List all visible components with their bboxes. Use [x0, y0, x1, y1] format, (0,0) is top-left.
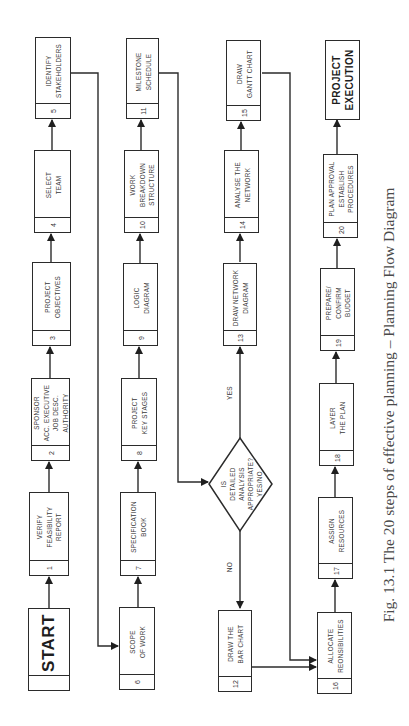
- step-3-project-objectives: PROJECT OBJECTIVES 3: [32, 262, 71, 346]
- step-number: 14: [238, 221, 245, 229]
- step-number: 12: [232, 680, 239, 688]
- step-number-strip: 13: [224, 330, 256, 345]
- step-label: LAYER THE PLAN: [327, 401, 346, 434]
- step-number: 6: [134, 680, 141, 684]
- step-number-strip: 9: [124, 330, 157, 345]
- step-label: ALLOCATE REONSIBILITIES: [325, 619, 344, 673]
- step-number: 15: [240, 109, 247, 117]
- step-label: SPONSOR ACC. EXECUTIVE JOB DESC. AUTHORI…: [32, 384, 70, 441]
- step-number-strip: 10: [125, 217, 158, 232]
- step-19-prepare-confirm-budget: PREPARE/ CONFIRM BUDGET 19: [320, 268, 355, 351]
- step-label: LOGIC DIAGRAM: [131, 282, 150, 314]
- step-number: 11: [139, 107, 146, 114]
- step-number-strip: 14: [225, 217, 258, 232]
- step-number-strip: 18: [320, 450, 353, 465]
- step-label: SPECIFICATION BOOK: [129, 501, 148, 553]
- step-label: DRAW GANTT CHART: [234, 50, 253, 98]
- end-label: PROJECT EXECUTION: [330, 49, 356, 110]
- step-number: 10: [138, 221, 145, 229]
- step-number: 20: [337, 226, 344, 234]
- step-number: 1: [46, 566, 53, 570]
- step-label: WORK BREAKDOWN STRUCTURE: [127, 163, 156, 207]
- start-strip: [29, 675, 69, 690]
- step-number-strip: 2: [32, 445, 69, 460]
- step-number: 13: [237, 334, 244, 342]
- yes-branch-label: YES: [226, 386, 233, 400]
- step-label: VERIFY FEASIBILITY REPORT: [35, 507, 64, 548]
- step-2-sponsor: SPONSOR ACC. EXECUTIVE JOB DESC. AUTHORI…: [31, 378, 70, 461]
- step-8-project-key-stages: PROJECT KEY STAGES 8: [121, 378, 157, 461]
- step-label: PLAN APPROVAL ESTABLISH PROCEDURES: [326, 161, 355, 216]
- step-1-verify-feasibility: VERIFY FEASIBILITY REPORT 1: [29, 492, 69, 576]
- step-16-allocate-responsibilities: ALLOCATE REONSIBILITIES 16: [317, 612, 352, 694]
- step-10-work-breakdown-structure: WORK BREAKDOWN STRUCTURE 10: [124, 150, 159, 233]
- step-number-strip: 17: [319, 563, 352, 578]
- step-number-strip: 8: [122, 445, 156, 460]
- decision-label: IS DETAILED ANALYSIS APPROPRIATE? YES/NO: [219, 458, 264, 511]
- step-number-strip: 3: [33, 330, 70, 345]
- step-number-strip: 20: [324, 222, 357, 237]
- step-11-milestone-schedule: MILESTONE SCHEDULE 11: [126, 38, 159, 119]
- step-5-identify-stakeholders: IDENTIFY STAKEHOLDERS 5: [35, 37, 71, 119]
- step-number-strip: 1: [30, 560, 68, 575]
- step-15-draw-gantt-chart: DRAW GANTT CHART 15: [226, 40, 261, 121]
- step-4-select-team: SELECT TEAM 4: [34, 150, 71, 233]
- step-label: SCOPE OF WORK: [128, 625, 147, 657]
- step-number-strip: 15: [227, 105, 260, 120]
- step-number: 18: [333, 454, 340, 462]
- step-number: 7: [135, 566, 142, 570]
- step-number: 17: [332, 567, 339, 575]
- step-7-specification-book: SPECIFICATION BOOK 7: [120, 492, 156, 576]
- step-number: 8: [136, 451, 143, 455]
- step-label: PROJECT KEY STAGES: [130, 391, 149, 433]
- step-label: SELECT TEAM: [43, 171, 62, 197]
- start-node: START: [28, 608, 70, 691]
- step-number-strip: 19: [321, 335, 354, 350]
- step-number-strip: 7: [121, 560, 155, 575]
- step-number: 5: [50, 109, 57, 113]
- step-number-strip: 6: [120, 674, 154, 689]
- step-label: ANALYSE THE NETWORK: [232, 161, 251, 207]
- step-label: PROJECT OBJECTIVES: [42, 276, 61, 318]
- step-13-draw-network-diagram: DRAW NETWORK DIAGRAM 13: [223, 263, 257, 346]
- step-label: MILESTONE SCHEDULE: [133, 52, 152, 91]
- start-label: START: [44, 614, 54, 672]
- step-number: 16: [331, 682, 338, 690]
- step-label: DRAW THE BAR CHART: [226, 625, 245, 664]
- step-number: 3: [48, 336, 55, 340]
- step-number: 9: [137, 336, 144, 340]
- step-label: PREPARE/ CONFIRM BUDGET: [323, 286, 352, 320]
- step-number-strip: 5: [36, 103, 70, 118]
- step-number-strip: 12: [219, 676, 251, 691]
- step-18-layer-the-plan: LAYER THE PLAN 18: [319, 383, 354, 466]
- step-number-strip: 4: [35, 217, 70, 232]
- step-6-scope-of-work: SCOPE OF WORK 6: [119, 607, 155, 690]
- step-label: IDENTIFY STAKEHOLDERS: [44, 44, 63, 98]
- no-branch-label: NO: [226, 562, 233, 573]
- planning-flow-diagram: START VERIFY FEASIBILITY REPORT 1 SPONSO…: [0, 0, 409, 726]
- step-14-analyse-network: ANALYSE THE NETWORK 14: [224, 150, 259, 233]
- step-number: 19: [334, 339, 341, 347]
- step-label: ASSIGN RESOURCES: [326, 510, 345, 553]
- step-12-draw-bar-chart: DRAW THE BAR CHART 12: [218, 610, 252, 692]
- project-execution-node: PROJECT EXECUTION: [325, 40, 360, 120]
- step-9-logic-diagram: LOGIC DIAGRAM 9: [123, 263, 158, 346]
- step-20-plan-approval: PLAN APPROVAL ESTABLISH PROCEDURES 20: [323, 154, 358, 238]
- step-number: 2: [47, 451, 54, 455]
- figure-caption: Fig. 13.1 The 20 steps of effective plan…: [380, 188, 398, 623]
- step-number: 4: [49, 223, 56, 227]
- step-17-assign-resources: ASSIGN RESOURCES 17: [318, 497, 353, 579]
- step-number-strip: 16: [318, 678, 351, 693]
- step-number-strip: 11: [127, 103, 158, 118]
- step-label: DRAW NETWORK DIAGRAM: [231, 269, 250, 326]
